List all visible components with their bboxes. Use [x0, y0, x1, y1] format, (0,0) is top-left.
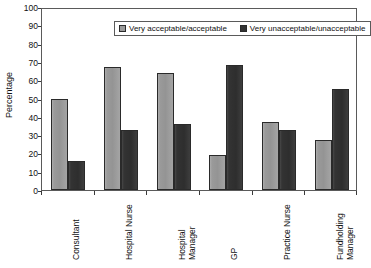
y-tick-label: 80	[16, 40, 38, 49]
bar	[262, 122, 279, 190]
y-tick-mark	[38, 118, 41, 119]
y-tick-label: 60	[16, 77, 38, 86]
y-axis-title: Percentage	[2, 0, 16, 190]
x-tick-mark	[41, 191, 42, 195]
bar-group	[253, 9, 306, 190]
y-tick-label: 90	[16, 22, 38, 31]
bar	[157, 73, 174, 190]
y-tick-label: 10	[16, 168, 38, 177]
x-tick-mark	[252, 191, 253, 195]
x-tick-mark	[199, 191, 200, 195]
plot-area	[42, 9, 356, 190]
legend-swatch-acceptable-icon	[119, 25, 126, 32]
y-tick-mark	[38, 81, 41, 82]
bar	[332, 89, 349, 190]
legend-swatch-unacceptable-icon	[240, 25, 247, 32]
x-tick-mark	[94, 191, 95, 195]
bar	[315, 140, 332, 190]
y-tick-label: 0	[16, 187, 38, 196]
legend-label-unacceptable: Very unacceptable/unacceptable	[250, 25, 366, 33]
y-tick-label: 40	[16, 114, 38, 123]
bar-group	[42, 9, 95, 190]
bar-group	[200, 9, 253, 190]
y-tick-label: 100	[16, 4, 38, 13]
bar	[174, 124, 191, 190]
y-tick-mark	[38, 26, 41, 27]
bar-group	[95, 9, 148, 190]
bar-group	[147, 9, 200, 190]
y-tick-label: 50	[16, 95, 38, 104]
y-tick-mark	[38, 100, 41, 101]
legend-item-unacceptable: Very unacceptable/unacceptable	[240, 25, 366, 33]
y-tick-mark	[38, 63, 41, 64]
y-axis-title-label: Percentage	[4, 72, 14, 118]
bar	[68, 161, 85, 190]
bar-group	[305, 9, 358, 190]
bar	[51, 99, 68, 191]
y-tick-mark	[38, 173, 41, 174]
x-tick-mark	[304, 191, 305, 195]
y-tick-label: 20	[16, 150, 38, 159]
x-axis-label-text: Fundholding Manager	[336, 198, 355, 260]
bar	[279, 130, 296, 190]
bar	[226, 65, 243, 190]
y-tick-mark	[38, 136, 41, 137]
bar	[121, 130, 138, 190]
y-tick-label: 30	[16, 132, 38, 141]
x-axis-label: Fundholding Manager	[266, 198, 336, 214]
y-axis-tick-labels: 0102030405060708090100	[16, 8, 38, 191]
chart-legend: Very acceptable/acceptable Very unaccept…	[114, 21, 371, 36]
y-tick-mark	[38, 191, 41, 192]
y-tick-mark	[38, 154, 41, 155]
x-tick-mark	[356, 191, 357, 195]
bar	[209, 155, 226, 190]
legend-item-acceptable: Very acceptable/acceptable	[119, 25, 227, 33]
y-tick-mark	[38, 8, 41, 9]
bar	[104, 67, 121, 190]
x-tick-mark	[146, 191, 147, 195]
legend-label-acceptable: Very acceptable/acceptable	[129, 25, 227, 33]
y-tick-mark	[38, 45, 41, 46]
y-tick-label: 70	[16, 59, 38, 68]
